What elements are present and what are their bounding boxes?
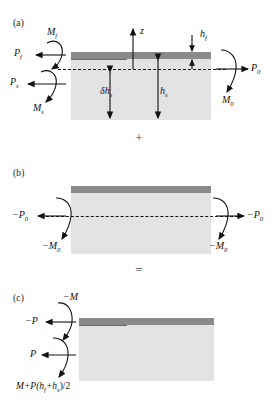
label-neg-P-c: −P bbox=[25, 316, 38, 326]
panel-c-arrows bbox=[0, 0, 278, 400]
label-moment-expression-c: M+P(hf+hs)/2 bbox=[16, 382, 70, 393]
label-neg-M-c: −M bbox=[63, 292, 78, 302]
label-P-c: P bbox=[30, 349, 36, 359]
